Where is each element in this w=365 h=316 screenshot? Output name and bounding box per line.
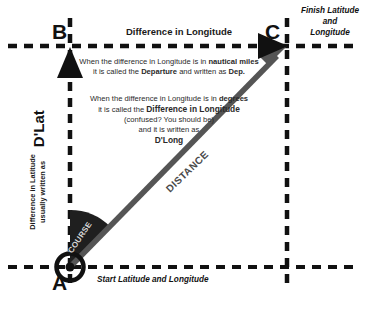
note-degrees-bold-dlong: D'Long — [78, 135, 260, 146]
note-degrees-line-3: (confused? You should be) — [78, 115, 260, 125]
note-degrees-line-4: and it is written as — [78, 125, 260, 135]
note-nautical-line-2-pre: it is called the — [93, 67, 141, 76]
finish-position-caption: Finish Latitude and Longitude — [296, 6, 364, 38]
note-degrees-line-1-pre: When the difference in Longitude is in — [90, 94, 219, 103]
note-degrees-line-2: it is called the Difference in Longitude — [78, 104, 260, 115]
note-nautical-miles: When the difference in Longitude is in n… — [78, 57, 260, 77]
note-nautical-bold-dep: Dep. — [229, 67, 245, 76]
difference-in-longitude-label: Difference in Longitude — [70, 26, 288, 37]
finish-caption-line-2: and — [296, 17, 364, 28]
note-degrees-line-2-pre: it is called the — [98, 105, 146, 114]
dlat-caption-line-1: Difference in Latitude — [28, 154, 38, 230]
note-degrees-line-1: When the difference in Longitude is in d… — [78, 94, 260, 104]
finish-caption-line-3: Longitude — [296, 28, 364, 39]
note-nautical-bold-nautical-miles: nautical miles — [208, 57, 258, 66]
note-degrees-bold-difference-in-longitude: Difference in Longitude — [146, 104, 240, 114]
dlat-caption: Difference in Latitude usually written a… — [28, 154, 47, 230]
dlat-abbreviation: D'Lat — [30, 110, 47, 147]
note-nautical-line-2-mid: and written as — [177, 67, 229, 76]
note-degrees-bold-degrees: degrees — [219, 94, 248, 103]
dlat-side-label: Difference in Latitude usually written a… — [18, 85, 58, 255]
start-position-caption: Start Latitude and Longitude — [97, 275, 208, 284]
vertex-label-a: A — [52, 272, 67, 293]
note-nautical-line-1: When the difference in Longitude is in n… — [78, 57, 260, 67]
note-degrees: When the difference in Longitude is in d… — [78, 94, 260, 146]
note-nautical-line-2: it is called the Departure and written a… — [78, 67, 260, 77]
note-nautical-line-1-pre: When the difference in Longitude is in — [79, 57, 208, 66]
finish-caption-line-1: Finish Latitude — [296, 6, 364, 17]
dlat-caption-line-2: usually written as — [38, 154, 48, 230]
distance-line — [72, 56, 277, 265]
navigation-triangle-diagram: B C A Difference in Longitude When the d… — [0, 0, 365, 316]
note-nautical-bold-departure: Departure — [141, 67, 177, 76]
vertex-label-b: B — [52, 21, 67, 42]
